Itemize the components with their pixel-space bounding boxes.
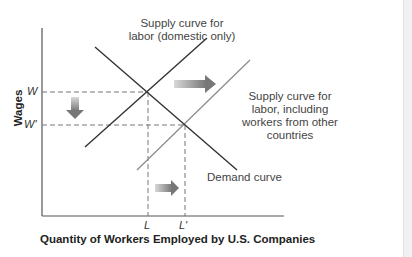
demand-label: Demand curve <box>207 171 282 184</box>
tick-w-prime: W' <box>24 118 36 130</box>
foreign-supply-label-line2: labor, including <box>230 103 350 116</box>
y-axis-label: Wages <box>12 86 24 130</box>
page-edge <box>403 0 412 257</box>
dashed-guides <box>42 92 185 216</box>
foreign-supply-label: Supply curve for labor, including worker… <box>230 90 350 142</box>
supply-shift-arrow-icon <box>174 75 216 93</box>
foreign-supply-label-line1: Supply curve for <box>230 90 350 103</box>
quantity-increase-arrow-icon <box>155 180 179 196</box>
x-axis-label: Quantity of Workers Employed by U.S. Com… <box>40 233 315 245</box>
foreign-supply-label-line4: countries <box>230 129 350 142</box>
tick-w: W <box>27 85 37 97</box>
domestic-supply-label-line2: labor (domestic only) <box>112 30 252 43</box>
wage-decrease-arrow-icon <box>66 97 84 119</box>
demand-curve <box>95 47 237 170</box>
tick-l: L <box>144 219 150 231</box>
tick-l-prime: L' <box>179 219 187 231</box>
domestic-supply-label: Supply curve for labor (domestic only) <box>112 17 252 43</box>
domestic-supply-label-line1: Supply curve for <box>112 17 252 30</box>
foreign-supply-label-line3: workers from other <box>230 116 350 129</box>
